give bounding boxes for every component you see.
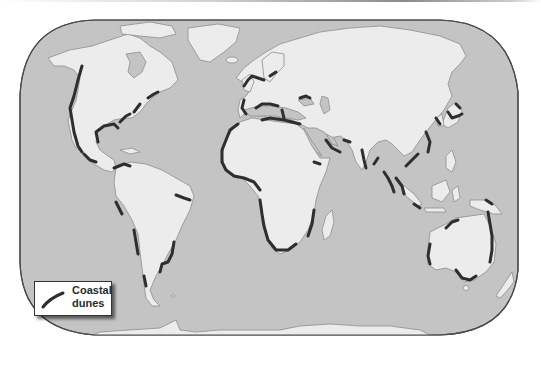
falklands bbox=[171, 295, 175, 297]
tasmania bbox=[463, 286, 469, 291]
dunes-med-italy bbox=[282, 110, 284, 118]
dunes-sa-west-3 bbox=[144, 276, 146, 286]
legend-label-line2: dunes bbox=[72, 297, 110, 310]
iceland bbox=[226, 57, 238, 63]
dunes-pakistan bbox=[344, 140, 350, 142]
legend-label: Coastal dunes bbox=[72, 284, 110, 310]
legend: Coastal dunes bbox=[34, 281, 112, 316]
dunes-black-sea bbox=[300, 96, 310, 98]
dunes-africa-horn bbox=[314, 162, 320, 164]
dunes-aus-west bbox=[428, 244, 430, 264]
legend-label-line1: Coastal bbox=[72, 284, 110, 297]
coastal-dunes-line-icon bbox=[40, 288, 66, 310]
java bbox=[424, 208, 446, 212]
